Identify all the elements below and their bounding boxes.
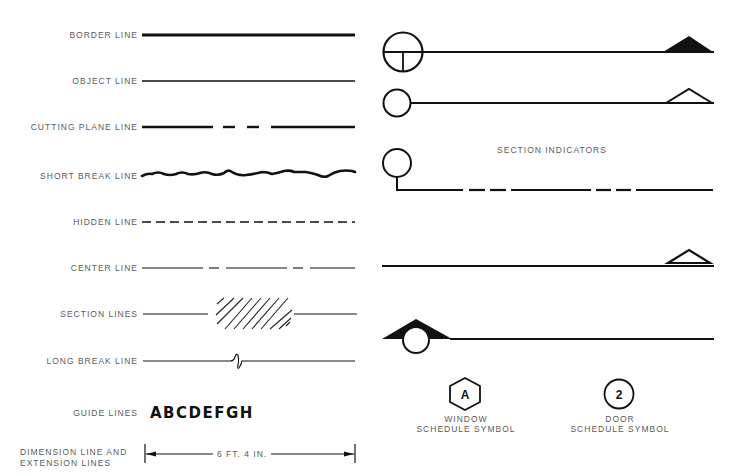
label-cutting-plane-line: CUTTING PLANE LINE xyxy=(31,122,138,132)
dimension-value: 6 FT. 4 IN. xyxy=(213,449,271,459)
label-short-break-line: SHORT BREAK LINE xyxy=(40,171,138,181)
label-center-line: CENTER LINE xyxy=(71,263,138,273)
label-long-break-line: LONG BREAK LINE xyxy=(46,356,138,366)
section-indicator-4 xyxy=(382,250,714,266)
drafting-diagram: A 2 xyxy=(0,0,735,476)
label-extension-lines: EXTENSION LINES xyxy=(20,458,111,468)
open-triangle xyxy=(668,250,710,263)
label-object-line: OBJECT LINE xyxy=(72,76,138,86)
door-symbol-glyph: 2 xyxy=(616,388,623,402)
door-label-line1: DOOR xyxy=(605,414,635,424)
hatch-pattern xyxy=(216,298,292,329)
window-symbol-glyph: A xyxy=(461,388,470,402)
label-section-lines: SECTION LINES xyxy=(60,309,138,319)
section-lines xyxy=(143,298,357,329)
short-break-line xyxy=(142,171,355,177)
arrowhead-right xyxy=(344,452,354,457)
section-indicator-2 xyxy=(384,89,715,117)
label-guide-lines: GUIDE LINES xyxy=(73,408,138,418)
door-schedule-symbol: 2 xyxy=(605,380,634,409)
door-label-line2: SCHEDULE SYMBOL xyxy=(570,424,669,434)
label-border-line: BORDER LINE xyxy=(69,30,138,40)
window-schedule-symbol: A xyxy=(450,378,480,410)
section-indicator-3 xyxy=(383,149,713,190)
long-break-line xyxy=(143,354,355,368)
section-indicator-5 xyxy=(382,319,714,353)
filled-triangle xyxy=(663,36,713,52)
window-label-line1: WINDOW xyxy=(444,414,487,424)
section-indicator-1 xyxy=(384,33,715,72)
window-label-line2: SCHEDULE SYMBOL xyxy=(416,424,515,434)
label-dimension-line: DIMENSION LINE AND xyxy=(20,447,127,457)
guide-lines-lettering: ABCDEFGH xyxy=(150,404,254,422)
open-triangle xyxy=(666,89,712,103)
label-hidden-line: HIDDEN LINE xyxy=(73,217,138,227)
arrowhead-left xyxy=(146,452,156,457)
section-indicators-title: SECTION INDICATORS xyxy=(497,145,607,155)
